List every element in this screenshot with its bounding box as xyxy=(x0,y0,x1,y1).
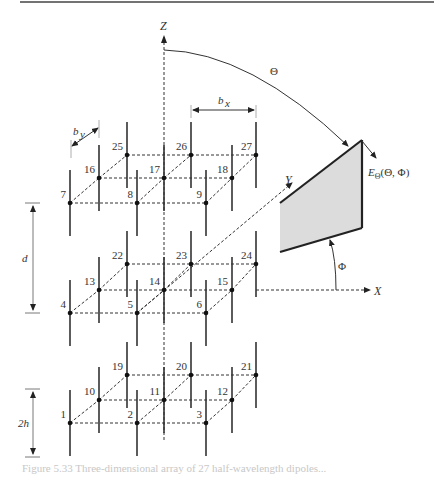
field-label-args: (Θ, Φ) xyxy=(381,166,410,179)
node-label: 10 xyxy=(84,385,96,397)
node-label: 5 xyxy=(128,298,134,310)
x-axis: X xyxy=(256,284,382,298)
node-label: 24 xyxy=(241,249,253,261)
node-label: 23 xyxy=(176,249,188,261)
dipole-feed-point xyxy=(189,373,194,378)
bx-dimension: b x xyxy=(191,94,256,118)
dipole-feed-point xyxy=(97,398,102,403)
node-label: 8 xyxy=(128,188,134,200)
by-label: b xyxy=(73,125,79,137)
dipole-feed-point xyxy=(162,288,167,293)
dipole-feed-point xyxy=(254,262,259,267)
node-label: 20 xyxy=(176,360,188,372)
dipole-feed-point xyxy=(189,262,194,267)
dipole-feed-point xyxy=(68,421,73,426)
dipole-feed-point xyxy=(162,398,167,403)
theta-label: Θ xyxy=(270,65,278,77)
dipole-feed-point xyxy=(204,311,209,316)
dipole-feed-point xyxy=(125,153,130,158)
node-label: 6 xyxy=(197,298,203,310)
dipole-feed-point xyxy=(68,201,73,206)
node-label: 3 xyxy=(197,408,203,420)
node-label: 12 xyxy=(217,385,228,397)
dipole-feed-point xyxy=(254,153,259,158)
dipole-feed-point xyxy=(204,201,209,206)
node-label: 18 xyxy=(217,163,229,175)
field-label: EΘ(Θ, Φ) xyxy=(367,166,410,181)
node-label: 2 xyxy=(128,408,134,420)
dipole-feed-point xyxy=(162,176,167,181)
dipole-feed-point xyxy=(125,262,130,267)
node-label: 19 xyxy=(112,360,124,372)
node-label: 17 xyxy=(149,163,161,175)
node-label: 13 xyxy=(84,275,96,287)
2h-label: 2h xyxy=(18,417,30,429)
phi-label: Φ xyxy=(338,260,346,272)
dipole-feed-point xyxy=(135,421,140,426)
by-dimension: b y xyxy=(71,120,99,158)
z-axis-label: Z xyxy=(160,19,167,33)
dipole-feed-point xyxy=(135,311,140,316)
node-label: 1 xyxy=(61,408,67,420)
node-label: 26 xyxy=(176,140,188,152)
node-label: 22 xyxy=(112,249,123,261)
dipole-feed-point xyxy=(125,373,130,378)
d-dimension: d xyxy=(22,203,40,313)
figure-caption: Figure 5.33 Three-dimensional array of 2… xyxy=(22,462,327,474)
dipole-feed-point xyxy=(254,373,259,378)
dipole-feed-point xyxy=(189,153,194,158)
x-axis-label: X xyxy=(373,284,382,298)
node-label: 4 xyxy=(61,298,67,310)
node-label: 25 xyxy=(112,140,124,152)
node-label: 27 xyxy=(241,140,253,152)
bx-label: b xyxy=(218,94,224,106)
dipole-feed-point xyxy=(204,421,209,426)
phi-arc: Φ xyxy=(330,240,346,290)
node-label: 15 xyxy=(217,275,229,287)
node-label: 11 xyxy=(149,385,160,397)
node-label: 7 xyxy=(61,188,67,200)
node-label: 21 xyxy=(241,360,252,372)
2h-dimension: 2h xyxy=(18,389,40,457)
node-label: 16 xyxy=(84,163,96,175)
dipole-feed-point xyxy=(135,201,140,206)
dipole-array-diagram: Z Θ b x b y d 2h Y xyxy=(0,0,434,477)
node-label: 9 xyxy=(197,188,203,200)
dipole-feed-point xyxy=(230,288,235,293)
dipole-feed-point xyxy=(97,288,102,293)
bx-subscript: x xyxy=(224,97,230,109)
dipole-feed-point xyxy=(230,176,235,181)
y-axis-label: Y xyxy=(285,173,293,187)
dipole-feed-point xyxy=(230,398,235,403)
field-pattern-plate: EΘ(Θ, Φ) xyxy=(280,140,410,252)
by-subscript: y xyxy=(79,128,85,140)
dipole-array: 1231011121920214561314152223247891617182… xyxy=(61,122,259,456)
node-label: 14 xyxy=(149,275,161,287)
d-label: d xyxy=(22,252,28,264)
dipole-feed-point xyxy=(68,311,73,316)
dipole-feed-point xyxy=(97,176,102,181)
